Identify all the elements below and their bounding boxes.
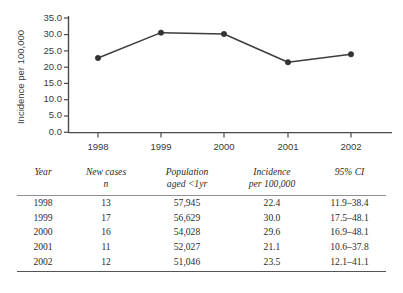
- table-header: Year New cases n Population aged <1yr In…: [17, 164, 386, 195]
- data-point-2000: [221, 31, 226, 36]
- cell-new-cases: 11: [69, 240, 143, 255]
- cell-population: 51,046: [143, 254, 231, 271]
- cell-population: 52,027: [143, 240, 231, 255]
- column-header-new-cases-line1: New cases: [69, 166, 143, 178]
- column-header-incidence-line1: Incidence: [231, 166, 313, 178]
- table-row: 2002 12 51,046 23.5 12.1–41.1: [17, 254, 386, 271]
- cell-population: 57,945: [143, 195, 231, 210]
- data-point-2001: [285, 60, 290, 65]
- y-tick-label-5: 5.0: [49, 109, 62, 120]
- cell-year: 2001: [17, 240, 69, 255]
- table-row: 2001 11 52,027 21.1 10.6–37.8: [17, 240, 386, 255]
- y-axis-title: Incidence per 100,000: [15, 30, 26, 124]
- cell-year: 1998: [17, 195, 69, 210]
- cell-ci: 11.9–38.4: [313, 195, 386, 210]
- cell-incidence: 22.4: [231, 195, 313, 210]
- incidence-data-table-container: Year New cases n Population aged <1yr In…: [17, 164, 386, 272]
- cell-population: 54,028: [143, 225, 231, 240]
- cell-new-cases: 13: [69, 195, 143, 210]
- data-point-2002: [348, 52, 353, 57]
- y-tick-label-10: 10.0: [44, 93, 63, 104]
- chart-canvas: Incidence per 100,000 35.0 30.0 25.0 20.…: [0, 0, 403, 160]
- table-body: 1998 13 57,945 22.4 11.9–38.4 1999 17 56…: [17, 195, 386, 271]
- column-header-year: Year: [17, 164, 69, 195]
- series-line-incidence: [98, 33, 351, 63]
- data-point-1999: [158, 30, 163, 35]
- cell-ci: 10.6–37.8: [313, 240, 386, 255]
- x-tick-label-2000: 2000: [213, 141, 234, 152]
- y-tick-label-20: 20.0: [44, 61, 63, 72]
- x-tick-label-2001: 2001: [277, 141, 298, 152]
- x-tick-label-2002: 2002: [340, 141, 361, 152]
- cell-year: 2002: [17, 254, 69, 271]
- y-tick-label-15: 15.0: [44, 77, 63, 88]
- incidence-data-table: Year New cases n Population aged <1yr In…: [17, 164, 386, 272]
- cell-year: 2000: [17, 225, 69, 240]
- cell-new-cases: 16: [69, 225, 143, 240]
- cell-new-cases: 17: [69, 210, 143, 225]
- y-tick-label-25: 25.0: [44, 45, 63, 56]
- table-row: 2000 16 54,028 29.6 16.9–48.1: [17, 225, 386, 240]
- column-header-population: Population aged <1yr: [143, 164, 231, 195]
- y-tick-label-35: 35.0: [44, 12, 63, 23]
- table-row: 1999 17 56,629 30.0 17.5–48.1: [17, 210, 386, 225]
- column-header-incidence-line2: per 100,000: [231, 178, 313, 190]
- cell-incidence: 29.6: [231, 225, 313, 240]
- series-markers: [95, 30, 353, 65]
- cell-ci: 16.9–48.1: [313, 225, 386, 240]
- y-tick-label-0: 0.0: [49, 126, 62, 137]
- cell-ci: 12.1–41.1: [313, 254, 386, 271]
- cell-incidence: 30.0: [231, 210, 313, 225]
- column-header-new-cases-line2: n: [69, 178, 143, 190]
- column-header-new-cases: New cases n: [69, 164, 143, 195]
- cell-population: 56,629: [143, 210, 231, 225]
- column-header-ci: 95% CI: [313, 164, 386, 195]
- column-header-incidence: Incidence per 100,000: [231, 164, 313, 195]
- cell-year: 1999: [17, 210, 69, 225]
- cell-incidence: 21.1: [231, 240, 313, 255]
- column-header-population-line1: Population: [143, 166, 231, 178]
- y-tick-label-30: 30.0: [44, 28, 63, 39]
- table-row: 1998 13 57,945 22.4 11.9–38.4: [17, 195, 386, 210]
- cell-new-cases: 12: [69, 254, 143, 271]
- column-header-ci-line1: 95% CI: [313, 166, 386, 178]
- cell-incidence: 23.5: [231, 254, 313, 271]
- column-header-year-line1: Year: [17, 166, 69, 178]
- column-header-population-line2: aged <1yr: [143, 178, 231, 190]
- x-tick-label-1999: 1999: [150, 141, 171, 152]
- incidence-line-chart: Incidence per 100,000 35.0 30.0 25.0 20.…: [0, 0, 403, 160]
- x-tick-label-1998: 1998: [87, 141, 108, 152]
- data-point-1998: [95, 55, 100, 60]
- table-header-row: Year New cases n Population aged <1yr In…: [17, 164, 386, 195]
- cell-ci: 17.5–48.1: [313, 210, 386, 225]
- x-axis-ticks: [98, 133, 351, 138]
